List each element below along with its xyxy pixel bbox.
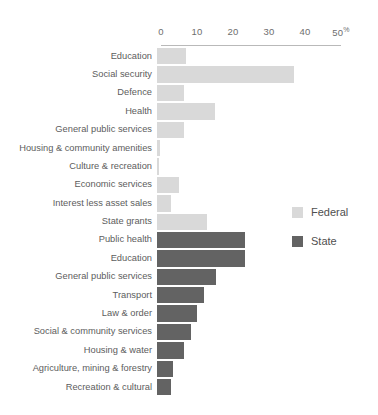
- x-tick-label-30: 30: [263, 26, 274, 37]
- legend-swatch-icon: [292, 207, 303, 218]
- chart-row: Culture & recreation: [0, 157, 378, 175]
- x-tick-label-50: 50%: [332, 26, 350, 38]
- bar-state[interactable]: [157, 361, 173, 377]
- bar-federal[interactable]: [157, 66, 294, 82]
- bar-cell: [157, 268, 378, 286]
- bar-federal[interactable]: [157, 177, 179, 193]
- category-label: Interest less asset sales: [0, 199, 157, 208]
- category-label: Education: [0, 254, 157, 263]
- bar-cell: [157, 378, 378, 396]
- legend-item-federal[interactable]: Federal: [292, 206, 348, 218]
- category-label: Agriculture, mining & forestry: [0, 364, 157, 373]
- category-label: Law & order: [0, 309, 157, 318]
- chart-row: Transport: [0, 286, 378, 304]
- bar-cell: [157, 360, 378, 378]
- chart-row: Housing & water: [0, 341, 378, 359]
- bar-state[interactable]: [157, 342, 184, 358]
- category-label: Social & community services: [0, 327, 157, 336]
- x-tick-label-0: 0: [158, 26, 164, 37]
- x-tick-label-20: 20: [227, 26, 238, 37]
- bar-cell: [157, 102, 378, 120]
- bar-cell: [157, 304, 378, 322]
- bar-cell: [157, 139, 378, 157]
- bar-federal[interactable]: [157, 140, 160, 156]
- bar-state[interactable]: [157, 305, 197, 321]
- category-label: Transport: [0, 291, 157, 300]
- bar-cell: [157, 84, 378, 102]
- bar-state[interactable]: [157, 232, 245, 248]
- bar-state[interactable]: [157, 287, 204, 303]
- bar-cell: [157, 47, 378, 65]
- category-label: Public health: [0, 235, 157, 244]
- category-label: Education: [0, 52, 157, 61]
- chart-row: Recreation & cultural: [0, 378, 378, 396]
- legend-label: Federal: [311, 206, 348, 218]
- legend-label: State: [311, 235, 337, 247]
- chart-row: Social security: [0, 65, 378, 83]
- bar-cell: [157, 121, 378, 139]
- bar-cell: [157, 341, 378, 359]
- x-axis-unit: %: [343, 26, 350, 33]
- bar-federal[interactable]: [157, 48, 186, 64]
- category-label: Health: [0, 107, 157, 116]
- category-label: Housing & community amenities: [0, 144, 157, 153]
- bar-state[interactable]: [157, 250, 245, 266]
- bar-federal[interactable]: [157, 103, 215, 119]
- bar-federal[interactable]: [157, 158, 159, 174]
- chart-row: Education: [0, 47, 378, 65]
- bar-state[interactable]: [157, 324, 191, 340]
- bar-cell: [157, 323, 378, 341]
- chart-row: General public services: [0, 268, 378, 286]
- category-label: Recreation & cultural: [0, 383, 157, 392]
- chart-row: Economic services: [0, 176, 378, 194]
- bar-cell: [157, 157, 378, 175]
- chart-row: Defence: [0, 84, 378, 102]
- chart-row: Health: [0, 102, 378, 120]
- category-label: General public services: [0, 272, 157, 281]
- bar-federal[interactable]: [157, 85, 184, 101]
- bar-cell: [157, 286, 378, 304]
- category-label: General public services: [0, 125, 157, 134]
- x-tick-label-40: 40: [299, 26, 310, 37]
- bar-state[interactable]: [157, 269, 216, 285]
- chart-row: Housing & community amenities: [0, 139, 378, 157]
- bar-cell: [157, 176, 378, 194]
- bar-state[interactable]: [157, 379, 171, 395]
- bar-cell: [157, 65, 378, 83]
- category-label: State grants: [0, 217, 157, 226]
- chart-row: Law & order: [0, 304, 378, 322]
- category-label: Social security: [0, 70, 157, 79]
- chart-row: Social & community services: [0, 323, 378, 341]
- legend-swatch-icon: [292, 236, 303, 247]
- bar-federal[interactable]: [157, 195, 171, 211]
- bar-federal[interactable]: [157, 214, 207, 230]
- x-axis-line: [161, 45, 341, 46]
- chart-row: Agriculture, mining & forestry: [0, 360, 378, 378]
- category-label: Housing & water: [0, 346, 157, 355]
- category-label: Defence: [0, 88, 157, 97]
- x-axis-ticks: 01020304050%: [161, 26, 341, 46]
- legend-item-state[interactable]: State: [292, 235, 348, 247]
- chart-legend: FederalState: [292, 206, 348, 264]
- bar-chart: 01020304050% EducationSocial securityDef…: [0, 0, 378, 415]
- category-label: Culture & recreation: [0, 162, 157, 171]
- bar-federal[interactable]: [157, 122, 184, 138]
- category-label: Economic services: [0, 180, 157, 189]
- x-tick-label-10: 10: [191, 26, 202, 37]
- chart-row: General public services: [0, 121, 378, 139]
